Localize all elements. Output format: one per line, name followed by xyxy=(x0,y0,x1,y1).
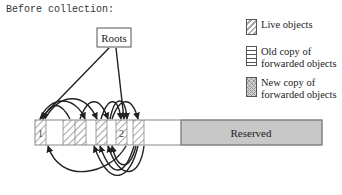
horizontal-lines-swatch xyxy=(246,46,257,66)
legend-new-copy: New copy of forwarded objects xyxy=(246,77,337,101)
legend-new-copy-line1: New copy of xyxy=(261,77,337,89)
free-space xyxy=(127,120,133,145)
legend-live-label: Live objects xyxy=(261,19,313,31)
legend-old-copy-line1: Old copy of xyxy=(261,46,337,58)
free-space xyxy=(86,120,96,145)
object-2-label: 2 xyxy=(119,128,124,139)
legend-new-copy-line2: forwarded objects xyxy=(261,89,337,101)
live-object xyxy=(96,120,107,145)
roots-label: Roots xyxy=(101,32,127,44)
legend-old-copy: Old copy of forwarded objects xyxy=(246,46,337,70)
pointer-arrow xyxy=(112,102,138,119)
roots-node: Roots xyxy=(97,28,131,47)
reserved-label: Reserved xyxy=(231,127,272,139)
pointer-arrow xyxy=(48,146,126,172)
crosshatch-swatch xyxy=(246,77,257,97)
legend-old-copy-line2: forwarded objects xyxy=(261,58,337,70)
free-space xyxy=(107,120,116,145)
live-object xyxy=(133,120,144,145)
pointer-arrows xyxy=(40,48,144,175)
live-object xyxy=(63,120,75,145)
live-object xyxy=(75,120,86,145)
free-space xyxy=(46,120,63,145)
pointer-arrow xyxy=(45,99,97,119)
object-1-label: 1 xyxy=(38,128,43,139)
diagonal-hatch-swatch xyxy=(246,19,257,35)
heap-bar: 1 2 Reserved xyxy=(35,120,322,145)
legend-live-objects: Live objects xyxy=(246,19,313,35)
free-space xyxy=(144,120,181,145)
